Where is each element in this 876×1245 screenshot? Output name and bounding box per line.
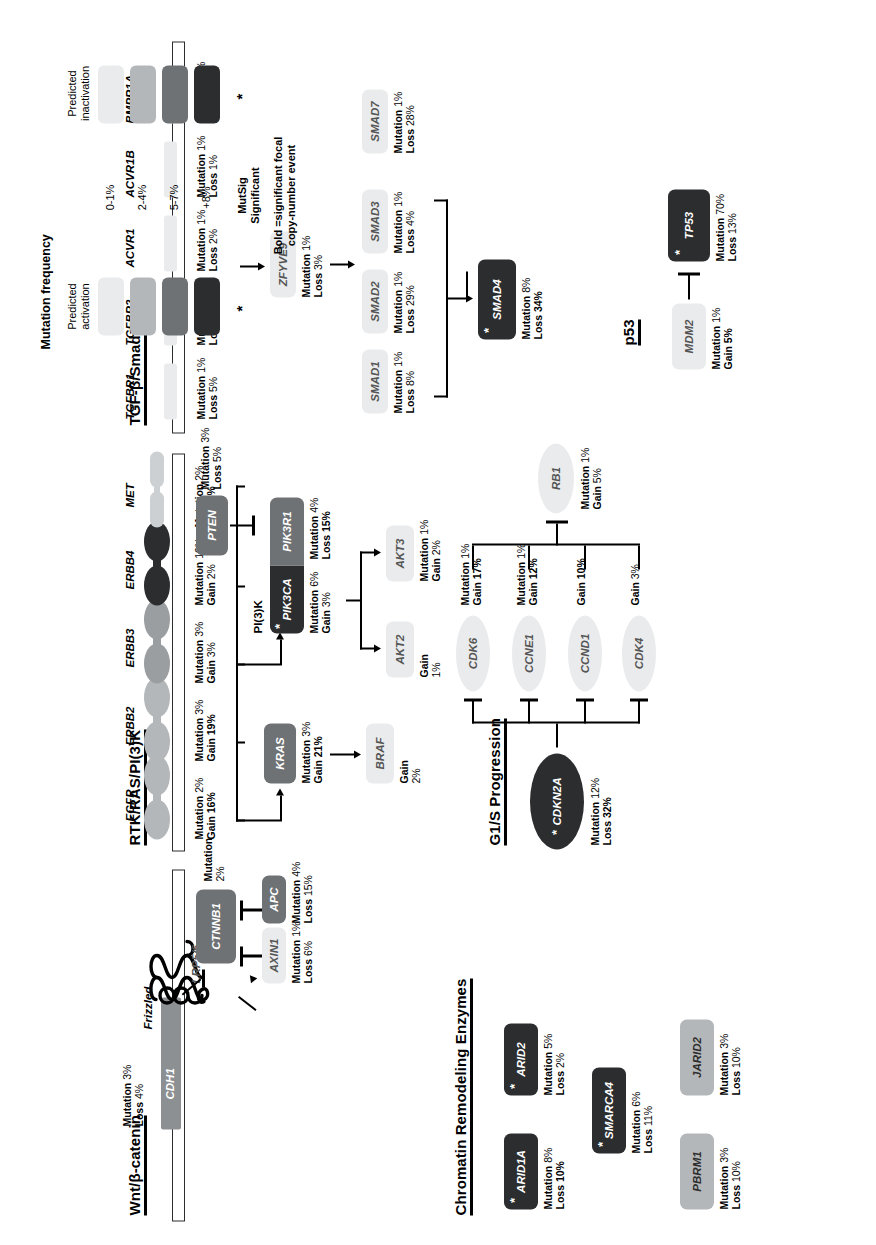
legend-range-3: +8% bbox=[200, 169, 213, 225]
arrow-to-kras-head bbox=[276, 788, 284, 795]
mutsig-star-pik3ca: * bbox=[273, 624, 286, 629]
legend-swatch-inact-3 bbox=[194, 65, 220, 123]
gene-node-smad4[interactable]: * SMAD4 bbox=[478, 259, 516, 339]
gene-node-smad1[interactable]: SMAD1 bbox=[362, 349, 388, 413]
acvr1-to-zfyve9-head bbox=[258, 262, 265, 270]
freq-mdm2: Mutation 1% Gain 5% bbox=[711, 307, 734, 369]
legend-range-2: 5-7% bbox=[168, 169, 181, 225]
gene-node-kras[interactable]: KRAS bbox=[264, 723, 296, 783]
gene-node-ccnd1[interactable]: CCND1 bbox=[568, 615, 602, 691]
gene-node-braf[interactable]: BRAF bbox=[366, 723, 394, 783]
freq-pik3ca: Mutation 6% Gain 3% bbox=[309, 571, 332, 633]
freq-erbb3: Mutation 3% Gain 3% bbox=[194, 621, 217, 683]
smad4-arrow-head bbox=[466, 294, 473, 302]
gene-node-pten[interactable]: PTEN bbox=[196, 495, 228, 555]
mutsig-star-tp53: * bbox=[673, 250, 686, 255]
gene-node-rb1[interactable]: RB1 bbox=[538, 443, 574, 513]
smad-bracket-r bbox=[434, 199, 448, 201]
gene-node-jarid2[interactable]: JARID2 bbox=[680, 1019, 714, 1095]
label-frizzled: Frizzled bbox=[142, 986, 154, 1029]
apc-inhibit-tip bbox=[240, 900, 243, 920]
pten-inhibit-line bbox=[230, 524, 254, 526]
rb1-branch-cdk4 bbox=[638, 545, 640, 569]
gene-node-tp53[interactable]: * TP53 bbox=[668, 189, 710, 261]
gene-node-cdkn2a[interactable]: * CDKN2A bbox=[530, 753, 584, 849]
legend-bold-note: Bold =significant focal copy-number even… bbox=[272, 105, 297, 285]
gene-node-cdk4[interactable]: CDK4 bbox=[622, 615, 656, 691]
gene-node-axin1[interactable]: AXIN1 bbox=[262, 927, 286, 983]
inhibit-tip-cdk4 bbox=[630, 699, 648, 702]
gene-node-arid1a[interactable]: * ARID1A bbox=[504, 1133, 538, 1209]
mdm2-inhibit-tip bbox=[678, 273, 700, 276]
label-pi3k: PI(3)K bbox=[252, 600, 264, 633]
freq-rb1: Mutation 1% Gain 5% bbox=[580, 447, 603, 509]
freq-smad4: Mutation 8% Loss 34% bbox=[521, 277, 544, 339]
legend-star-left: * bbox=[236, 305, 249, 311]
freq-arid2: Mutation 5% Loss 2% bbox=[543, 1033, 566, 1095]
freq-smad3: Mutation 1% Loss 4% bbox=[393, 191, 416, 253]
rtk-bracket-mid-drop bbox=[236, 663, 280, 665]
rb1-branch-ccne1 bbox=[528, 545, 530, 569]
branch-cdk4 bbox=[638, 699, 640, 723]
gene-node-pik3ca[interactable]: * PIK3CA bbox=[270, 565, 304, 633]
legend-swatch-inact-2 bbox=[162, 65, 188, 123]
gene-label-erbb4: ERBB4 bbox=[124, 550, 136, 589]
gene-node-smarca4[interactable]: * SMARCA4 bbox=[592, 1067, 626, 1153]
section-title-p53: p53 bbox=[620, 319, 641, 345]
gene-node-smad3[interactable]: SMAD3 bbox=[362, 189, 388, 253]
legend-swatch-inact-1 bbox=[130, 65, 156, 123]
freq-braf: Gain 2% bbox=[399, 760, 422, 783]
akt3-arrowhead bbox=[374, 548, 381, 556]
arrow-to-pi3k-shaft bbox=[280, 639, 282, 665]
legend-swatch-act-3 bbox=[194, 277, 220, 335]
inhibit-tip-cdk6 bbox=[464, 699, 482, 702]
gene-node-pik3r1[interactable]: PIK3R1 bbox=[270, 497, 304, 565]
gene-node-pbrm1[interactable]: PBRM1 bbox=[680, 1133, 714, 1209]
legend-star-right: * bbox=[236, 93, 249, 99]
zfyve9-down-head bbox=[348, 260, 355, 268]
gene-node-arid2[interactable]: * ARID2 bbox=[504, 1023, 538, 1095]
mutsig-star-arid2: * bbox=[508, 1084, 521, 1089]
rtk-bracket-left-drop bbox=[236, 819, 280, 821]
rb1-inhibit-shaft bbox=[556, 523, 558, 545]
gene-node-ccne1[interactable]: CCNE1 bbox=[512, 615, 546, 691]
inhibit-tip-ccnd1 bbox=[576, 699, 594, 702]
gene-node-akt2[interactable]: AKT2 bbox=[386, 621, 414, 677]
gene-label-erbb3: ERBB3 bbox=[124, 628, 136, 667]
gene-node-ctnnb1[interactable]: CTNNB1 bbox=[196, 889, 236, 963]
legend-swatch-inact-0 bbox=[98, 65, 124, 123]
rtk-bracket-t4 bbox=[236, 585, 245, 587]
freq-zfyve9: Mutation 1% Loss 3% bbox=[301, 235, 324, 297]
pathway-diagram-canvas: Wnt/β-catenin CDH1 Mutation 3% Loss 4% F… bbox=[0, 0, 876, 1245]
legend-swatch-act-0 bbox=[98, 277, 124, 335]
freq-smad7: Mutation 1% Loss 28% bbox=[393, 91, 416, 153]
gene-node-smad7[interactable]: SMAD7 bbox=[362, 89, 388, 153]
smad-bracket-l bbox=[434, 395, 448, 397]
freq-akt3: Mutation 1% Gain 2% bbox=[419, 519, 442, 581]
freq-jarid2: Mutation 3% Loss 10% bbox=[719, 1033, 742, 1095]
section-title-wnt: Wnt/β-catenin bbox=[126, 1115, 147, 1215]
freq-cdh1: Mutation 3% Loss 4% bbox=[122, 1064, 145, 1126]
freq-egfr: Mutation 2% Gain 16% bbox=[194, 777, 217, 839]
rb1-branch-cdk6 bbox=[472, 545, 474, 569]
gene-node-akt3[interactable]: AKT3 bbox=[386, 525, 414, 581]
smad-bracket-drop bbox=[446, 297, 468, 299]
pten-inhibit-tip bbox=[252, 515, 255, 535]
zfyve9-down-shaft bbox=[330, 263, 350, 265]
gene-node-apc[interactable]: APC bbox=[262, 875, 286, 923]
rtk-bracket-top bbox=[236, 485, 238, 821]
rtk-bracket-t2 bbox=[236, 741, 245, 743]
gene-node-smad2[interactable]: SMAD2 bbox=[362, 269, 388, 333]
section-title-g1s: G1/S Progression bbox=[486, 718, 507, 845]
g1s-vertical-bracket bbox=[472, 721, 640, 723]
branch-ccnd1 bbox=[584, 699, 586, 723]
legend-col-activation: Predicted activation bbox=[66, 273, 91, 339]
gene-label-tgfbr1: TGFBR1 bbox=[124, 373, 136, 419]
legend-range-1: 2-4% bbox=[136, 169, 149, 225]
gene-node-mdm2[interactable]: MDM2 bbox=[672, 303, 706, 369]
freq-akt2: Gain 1% bbox=[419, 654, 442, 677]
gene-node-cdk6[interactable]: CDK6 bbox=[456, 615, 490, 691]
inhibit-tip-ccne1 bbox=[520, 699, 538, 702]
gene-label-erbb2: ERBB2 bbox=[124, 706, 136, 745]
receptor-tgfbr1[interactable] bbox=[164, 363, 177, 419]
